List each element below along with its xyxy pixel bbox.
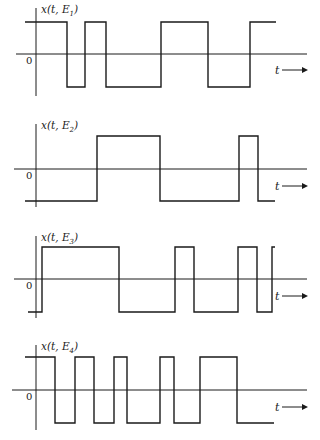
arrowhead-icon <box>302 293 308 299</box>
waveform-label: x(t, E3) <box>41 231 78 246</box>
zero-label: 0 <box>26 280 32 291</box>
waveform-label: x(t, E2) <box>41 119 78 134</box>
arrowhead-icon <box>302 183 308 189</box>
waveform-label: x(t, E1) <box>41 3 78 18</box>
arrowhead-icon <box>302 67 308 73</box>
t-label: t <box>275 401 280 414</box>
waveform-panel-4: x(t, E4)0t <box>12 340 308 430</box>
t-label: t <box>275 64 280 77</box>
t-label: t <box>275 290 280 303</box>
waveform-panel-2: x(t, E2)0t <box>14 119 308 207</box>
waveform-label: x(t, E4) <box>41 340 78 355</box>
zero-label: 0 <box>26 391 32 402</box>
random-process-sample-functions-figure: x(t, E1)0tx(t, E2)0tx(t, E3)0tx(t, E4)0t <box>0 0 320 440</box>
arrowhead-icon <box>302 404 308 410</box>
waveform-panel-3: x(t, E3)0t <box>14 231 308 318</box>
zero-label: 0 <box>26 170 32 181</box>
zero-label: 0 <box>26 55 32 66</box>
t-label: t <box>275 180 280 193</box>
waveform-panel-1: x(t, E1)0t <box>16 3 308 96</box>
